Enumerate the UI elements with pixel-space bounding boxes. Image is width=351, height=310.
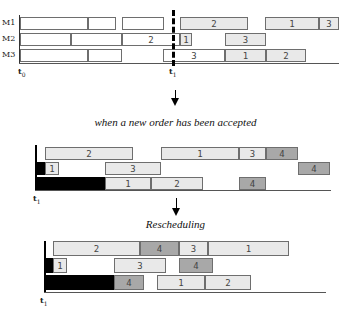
machine-label-m1: M1 <box>2 18 15 27</box>
time-axis <box>44 292 326 293</box>
time-axis <box>19 63 339 64</box>
job-block <box>88 49 122 62</box>
t1-label: t1 <box>40 295 48 307</box>
job-block <box>88 17 116 30</box>
job-block: 1 <box>208 241 289 256</box>
job-block: 4 <box>239 177 266 190</box>
job-block: 1 <box>161 147 239 160</box>
job-block: 1 <box>105 177 151 190</box>
job-block: 3 <box>114 258 166 273</box>
t1-sub: 1 <box>173 71 177 78</box>
job-block: 4 <box>140 241 179 256</box>
job-block: 1 <box>265 17 319 30</box>
job-block: 3 <box>319 17 339 30</box>
job-block: 4 <box>114 275 144 290</box>
job-block: 2 <box>151 177 203 190</box>
t1-dashed-line <box>172 10 175 66</box>
job-block: 3 <box>239 147 266 160</box>
machine-label-m2: M2 <box>2 34 15 43</box>
job-block <box>35 162 45 175</box>
job-block: 1 <box>45 162 59 175</box>
job-block: 2 <box>45 147 133 160</box>
job-block: 1 <box>180 33 192 46</box>
job-block: 4 <box>179 258 213 273</box>
job-block: 2 <box>205 275 251 290</box>
t1-label: t1 <box>33 193 41 205</box>
job-block: 2 <box>180 17 248 30</box>
job-block: 4 <box>266 147 298 160</box>
job-block: 4 <box>298 162 330 175</box>
job-block <box>35 177 105 190</box>
job-block <box>20 33 71 46</box>
job-block: 3 <box>225 33 266 46</box>
job-block: 2 <box>266 49 306 62</box>
machine-label-m3: M3 <box>2 50 15 59</box>
t1-sub: 1 <box>44 300 48 307</box>
job-block <box>20 17 88 30</box>
job-block <box>122 17 164 30</box>
job-block: 3 <box>105 162 161 175</box>
down-arrow-icon <box>171 98 179 106</box>
t0-sub: 0 <box>22 71 26 78</box>
t1-sub: 1 <box>37 198 41 205</box>
job-block: 2 <box>53 241 140 256</box>
time-axis <box>35 190 331 191</box>
job-block: 1 <box>157 275 205 290</box>
job-block: 1 <box>53 258 67 273</box>
job-block <box>45 258 53 273</box>
job-block: 3 <box>179 241 208 256</box>
down-arrow-icon <box>172 208 180 216</box>
t1-label: t1 <box>169 66 177 78</box>
job-block <box>20 49 88 62</box>
t0-label: t0 <box>18 66 26 78</box>
job-block: 1 <box>225 49 266 62</box>
caption-new-order: when a new order has been accepted <box>0 116 351 128</box>
job-block <box>45 275 114 290</box>
caption-rescheduling: Rescheduling <box>0 218 351 230</box>
job-block <box>71 33 122 46</box>
